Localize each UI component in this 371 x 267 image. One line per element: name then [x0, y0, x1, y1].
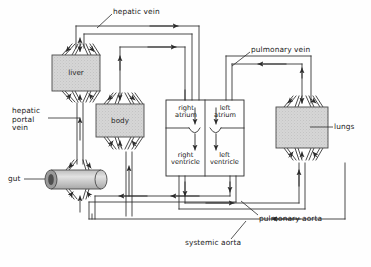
heart-chamber-left-atrium: left atrium	[206, 105, 244, 120]
body-artery-path	[126, 152, 132, 216]
body-vein-path	[120, 47, 185, 100]
leader-systemic-aorta	[231, 221, 246, 239]
hepatic-portal-vein-path	[77, 103, 83, 164]
organ-label-liver: liver	[52, 68, 100, 77]
systemic-aorta-path	[89, 176, 236, 219]
label-lungs: lungs	[334, 123, 354, 132]
heart-chamber-right-atrium: right atrium	[167, 105, 205, 120]
organ-lungs-shape	[276, 107, 328, 148]
diagram-canvas	[0, 0, 371, 267]
label-pulmonary-vein: pulmonary vein	[251, 46, 310, 55]
label-pulmonary-aorta: pulmonary aorta	[259, 215, 322, 224]
label-hepatic-vein: hepatic vein	[113, 8, 160, 17]
label-gut: gut	[8, 175, 21, 184]
lower-return-trunk	[89, 163, 345, 219]
label-systemic-aorta: systemic aorta	[185, 239, 241, 248]
heart-chamber-right-ventricle: right ventricle	[166, 152, 205, 167]
organ-gut-shape	[45, 170, 107, 189]
heart-chamber-left-ventricle: left ventricle	[205, 152, 244, 167]
organ-label-body: body	[96, 116, 144, 125]
circulation-diagram: liver body right atrium left atrium righ…	[0, 0, 371, 267]
label-hepatic-portal-vein: hepatic portal vein	[12, 107, 40, 133]
pulmonary-vein-path	[226, 56, 311, 103]
